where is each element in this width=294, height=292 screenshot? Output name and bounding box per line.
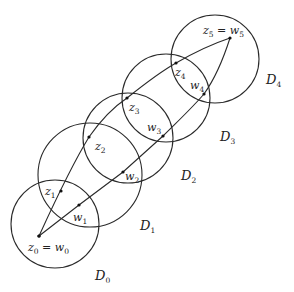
disk-label-d4: D4 — [265, 72, 281, 89]
disk-chain-diagram: D0D1D2D3D4z1z2z3z4w1w2w3w4z0 = w0z5 = w5 — [0, 0, 294, 292]
start-label-z0-eq-w0: z0 = w0 — [27, 241, 69, 256]
disk-d3 — [122, 54, 210, 142]
point-label-w1: w1 — [73, 211, 87, 226]
point-w1 — [77, 203, 80, 206]
point-label-w4: w4 — [190, 79, 204, 94]
disk-label-d2: D2 — [180, 168, 196, 185]
point-z1 — [59, 189, 62, 192]
point-label-w3: w3 — [147, 121, 161, 136]
point-z4 — [174, 61, 177, 64]
point-w3 — [161, 134, 164, 137]
disk-label-d1: D1 — [139, 218, 155, 235]
labels-group: D0D1D2D3D4z1z2z3z4w1w2w3w4z0 = w0z5 = w5 — [27, 24, 281, 285]
point-z2 — [87, 135, 90, 138]
point-label-z3: z3 — [128, 101, 140, 116]
disk-label-d3: D3 — [219, 129, 235, 146]
point-z3 — [125, 96, 128, 99]
disk-label-d0: D0 — [94, 268, 110, 285]
end-label-z5-eq-w5: z5 = w5 — [202, 24, 244, 39]
point-w0 — [37, 234, 40, 237]
point-label-w2: w2 — [125, 170, 139, 185]
point-label-z2: z2 — [94, 140, 106, 155]
point-label-z1: z1 — [44, 185, 56, 200]
point-label-z4: z4 — [174, 66, 186, 81]
